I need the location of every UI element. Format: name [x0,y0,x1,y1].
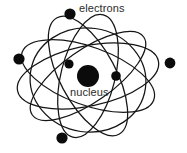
electron-right [165,58,176,69]
electron-top [64,8,75,19]
atom-diagram-svg [0,0,187,153]
atom-diagram-canvas: electrons nucleus [0,0,187,153]
electron-left [13,53,24,64]
nucleus-core [77,65,99,87]
electron-bottom [56,132,67,143]
label-electrons: electrons [79,2,125,14]
label-nucleus: nucleus [70,86,109,98]
electron-inner-right [111,71,121,81]
nucleus [77,65,99,87]
electron-inner-left [64,59,73,68]
